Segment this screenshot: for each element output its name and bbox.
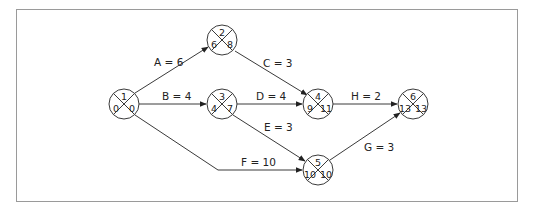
node-number: 2	[219, 27, 225, 38]
edge-label-c: C = 3	[263, 57, 293, 69]
node-1: 1 0 0	[109, 89, 139, 119]
node-latest: 13	[415, 103, 427, 114]
edge-label-a: A = 6	[154, 56, 184, 68]
node-latest: 11	[320, 103, 332, 114]
node-earliest: 10	[304, 169, 316, 180]
node-earliest: 0	[113, 103, 119, 114]
node-3: 3 4 7	[207, 89, 237, 119]
node-earliest: 9	[307, 103, 313, 114]
edge-label-e: E = 3	[264, 121, 293, 133]
edge-label-g: G = 3	[364, 141, 394, 153]
node-number: 1	[121, 91, 127, 102]
node-earliest: 6	[211, 39, 217, 50]
node-earliest: 4	[211, 103, 217, 114]
node-4: 4 9 11	[303, 89, 333, 119]
edge-label-h: H = 2	[351, 90, 381, 102]
edge-a: A = 6	[135, 47, 208, 93]
edge-label-b: B = 4	[162, 90, 192, 102]
node-latest: 0	[129, 103, 135, 114]
node-2: 2 6 8	[207, 25, 237, 55]
node-6: 6 13 13	[398, 89, 428, 119]
node-5: 5 10 10	[303, 155, 333, 185]
node-latest: 7	[227, 103, 233, 114]
network-diagram: A = 6 B = 4 C = 3 D = 4 E = 3 F = 10 G =…	[0, 0, 536, 212]
edge-d: D = 4	[237, 90, 302, 104]
node-number: 5	[315, 157, 321, 168]
edge-h: H = 2	[333, 90, 397, 104]
node-number: 3	[219, 91, 225, 102]
node-latest: 10	[320, 169, 332, 180]
node-number: 4	[315, 91, 321, 102]
node-latest: 8	[227, 39, 233, 50]
edge-g: G = 3	[330, 113, 400, 160]
edge-b: B = 4	[139, 90, 206, 104]
edge-c: C = 3	[235, 51, 307, 95]
node-number: 6	[410, 91, 416, 102]
edge-label-f: F = 10	[241, 156, 276, 168]
edge-label-d: D = 4	[256, 90, 287, 102]
edge-e: E = 3	[233, 115, 305, 161]
node-earliest: 13	[399, 103, 411, 114]
